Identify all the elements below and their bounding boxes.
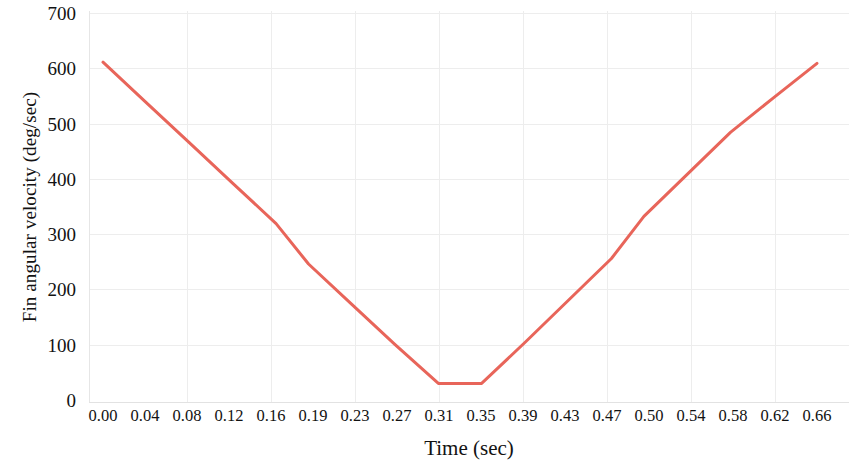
chart-figure: Fin angular velocity (deg/sec) 010020030…	[0, 0, 861, 472]
x-tick-label: 0.27	[383, 406, 412, 426]
x-tick-label: 0.39	[509, 406, 538, 426]
x-tick-label: 0.31	[425, 406, 454, 426]
y-tick-label: 200	[48, 280, 77, 299]
x-tick-label: 0.66	[803, 406, 832, 426]
x-tick-label: 0.08	[173, 406, 202, 426]
y-axis-tick-labels: 0100200300400500600700	[0, 0, 84, 472]
x-tick-label: 0.35	[467, 406, 496, 426]
data-series-line	[89, 11, 849, 403]
x-tick-label: 0.62	[761, 406, 790, 426]
x-tick-label: 0.04	[131, 406, 160, 426]
x-tick-label: 0.16	[257, 406, 286, 426]
x-tick-label: 0.19	[299, 406, 328, 426]
y-tick-label: 100	[48, 335, 77, 354]
x-tick-label: 0.12	[215, 406, 244, 426]
x-tick-label: 0.50	[635, 406, 664, 426]
series-polyline	[103, 62, 817, 383]
x-tick-label: 0.58	[719, 406, 748, 426]
plot-area	[89, 11, 849, 403]
y-tick-label: 300	[48, 225, 77, 244]
x-tick-label: 0.00	[89, 406, 118, 426]
y-tick-label: 0	[67, 391, 77, 410]
x-tick-label: 0.54	[677, 406, 706, 426]
y-tick-label: 600	[48, 59, 77, 78]
x-axis-title: Time (sec)	[89, 436, 849, 461]
y-tick-label: 700	[48, 4, 77, 23]
x-tick-label: 0.23	[341, 406, 370, 426]
x-tick-label: 0.43	[551, 406, 580, 426]
y-tick-label: 400	[48, 169, 77, 188]
y-tick-label: 500	[48, 114, 77, 133]
x-tick-label: 0.47	[593, 406, 622, 426]
x-axis-tick-labels: 0.000.040.080.120.160.190.230.270.310.35…	[89, 406, 849, 432]
